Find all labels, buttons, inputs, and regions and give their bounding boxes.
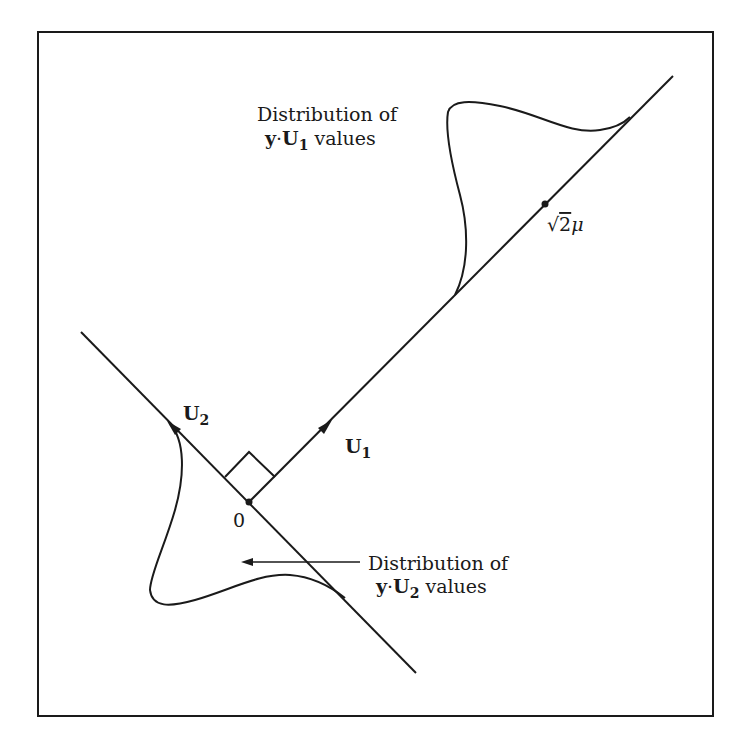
pointer-arrowhead-icon — [241, 558, 253, 566]
lower-annotation-line1: Distribution of — [368, 552, 510, 574]
mean-point-dot — [542, 201, 549, 208]
u1-distribution-curve — [447, 102, 630, 295]
origin-label: 0 — [233, 509, 245, 531]
projection-diagram: U2 U1 0 √2μ Distribution of y·U1values D… — [0, 0, 748, 742]
upper-annotation-line1: Distribution of — [257, 103, 399, 125]
u1-label: U1 — [345, 435, 371, 461]
right-angle-marker — [225, 452, 275, 477]
mean-point-label: √2μ — [547, 213, 584, 235]
origin-dot — [246, 499, 253, 506]
upper-annotation-line2: y·U1values — [264, 127, 376, 153]
u2-label: U2 — [183, 402, 209, 428]
u1-axis-line — [249, 76, 673, 502]
u2-distribution-curve — [150, 424, 345, 605]
lower-annotation-line2: y·U2values — [375, 575, 487, 601]
